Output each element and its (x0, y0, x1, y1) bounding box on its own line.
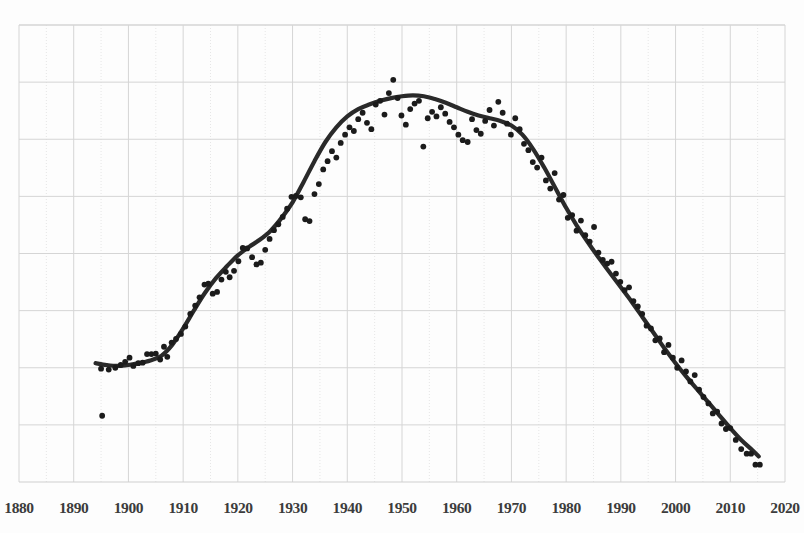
data-point (112, 365, 118, 371)
data-point (284, 206, 290, 212)
trend-line-layer (96, 95, 759, 456)
data-point (491, 123, 497, 129)
data-point (364, 120, 370, 126)
data-point (587, 239, 593, 245)
x-tick-label: 1970 (497, 499, 527, 516)
x-tick-label: 1980 (551, 499, 581, 516)
data-point (757, 462, 763, 468)
data-point (738, 446, 744, 452)
data-point (420, 144, 426, 150)
data-point (219, 277, 225, 283)
data-point (574, 228, 580, 234)
data-point (298, 194, 304, 200)
data-point (355, 116, 361, 122)
data-point (455, 132, 461, 138)
data-point (127, 355, 133, 361)
data-point (727, 425, 733, 431)
data-point (231, 268, 237, 274)
data-point (469, 116, 475, 122)
data-point (425, 115, 431, 121)
data-point (661, 349, 667, 355)
data-point (187, 311, 193, 317)
data-point (106, 367, 112, 373)
data-point (192, 303, 198, 309)
x-tick-label: 1930 (278, 499, 308, 516)
data-point (478, 131, 484, 137)
data-point (197, 294, 203, 300)
data-point (451, 124, 457, 130)
data-point (140, 360, 146, 366)
data-point (733, 437, 739, 443)
data-point (258, 260, 264, 266)
data-point (227, 274, 233, 280)
data-point (552, 170, 558, 176)
data-point (561, 192, 567, 198)
chart-container: 1880189019001910192019301940195019601970… (0, 0, 804, 533)
data-point (416, 98, 422, 104)
trend-line (96, 95, 759, 456)
data-point (596, 250, 602, 256)
data-point (692, 372, 698, 378)
data-point (178, 331, 184, 337)
data-point (399, 113, 405, 119)
data-point (626, 284, 632, 290)
data-point (547, 186, 553, 192)
data-point (275, 221, 281, 227)
data-point (482, 118, 488, 124)
data-point (395, 95, 401, 101)
data-point (635, 304, 641, 310)
data-point (249, 254, 255, 260)
x-tick-label: 1920 (223, 499, 253, 516)
data-point (539, 155, 545, 161)
data-point (390, 77, 396, 83)
data-point (236, 258, 242, 264)
data-point (164, 354, 170, 360)
data-point (153, 351, 159, 357)
data-point (591, 224, 597, 230)
data-point (99, 413, 105, 419)
x-tick-label: 1950 (387, 499, 417, 516)
data-point (719, 421, 725, 427)
data-point (223, 269, 229, 275)
data-point (262, 247, 268, 253)
data-point (386, 90, 392, 96)
data-points-layer (98, 77, 763, 468)
x-tick-label: 2000 (661, 499, 691, 516)
data-point (316, 181, 322, 187)
data-point (214, 289, 220, 295)
data-point (674, 365, 680, 371)
data-point (706, 401, 712, 407)
data-point (465, 139, 471, 145)
data-point (504, 121, 510, 127)
grid-lines (19, 25, 785, 482)
data-point (442, 111, 448, 117)
data-point (338, 140, 344, 146)
data-point (556, 197, 562, 203)
data-point (98, 366, 104, 372)
data-point (403, 122, 409, 128)
data-point (205, 281, 211, 287)
data-point (648, 326, 654, 332)
data-point (307, 218, 313, 224)
x-tick-label: 1880 (4, 499, 34, 516)
x-tick-label: 2010 (716, 499, 746, 516)
x-tick-label: 1990 (606, 499, 636, 516)
data-point (500, 110, 506, 116)
data-point (280, 214, 286, 220)
scatter-chart: 1880189019001910192019301940195019601970… (0, 0, 804, 533)
x-tick-label: 2020 (770, 499, 800, 516)
data-point (701, 394, 707, 400)
x-tick-label: 1940 (333, 499, 363, 516)
data-point (679, 358, 685, 364)
data-point (351, 128, 357, 134)
data-point (521, 141, 527, 147)
data-point (508, 132, 514, 138)
data-point (244, 246, 250, 252)
data-point (130, 363, 136, 369)
data-point (122, 359, 128, 365)
data-point (613, 271, 619, 277)
data-point (530, 159, 536, 165)
data-point (512, 115, 518, 121)
data-point (609, 259, 615, 265)
data-point (517, 126, 523, 132)
